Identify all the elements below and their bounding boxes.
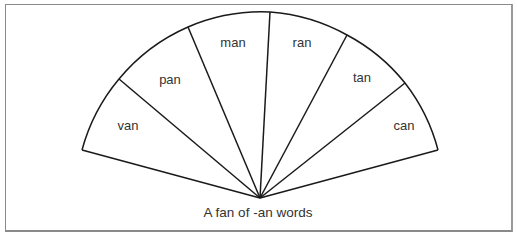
fan-divider (260, 83, 405, 198)
segment-label-man: man (220, 35, 245, 50)
segment-label-tan: tan (353, 70, 371, 85)
fan-left-edge (82, 150, 260, 198)
fan-divider (260, 35, 347, 198)
fan-diagram: vanpanmanrantancan A fan of -an words (0, 0, 517, 237)
segment-label-van: van (118, 118, 139, 133)
segment-label-ran: ran (293, 35, 312, 50)
fan-divider (188, 27, 260, 198)
segment-label-pan: pan (159, 72, 181, 87)
fan-divider (260, 12, 270, 198)
diagram-caption: A fan of -an words (204, 205, 313, 220)
fan-right-edge (260, 150, 438, 198)
segment-label-can: can (394, 118, 415, 133)
fan-divider (119, 79, 260, 198)
